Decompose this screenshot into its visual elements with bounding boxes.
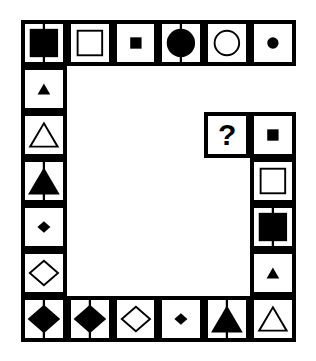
shape-triangle-small-filled-icon xyxy=(25,69,63,109)
puzzle-cell-r2c1 xyxy=(21,66,67,112)
puzzle-cell-r5c6 xyxy=(250,204,296,250)
cell-content-r3c5: ? xyxy=(208,116,246,154)
puzzle-cell-r6c6 xyxy=(250,250,296,296)
puzzle-cell-r7c4 xyxy=(158,296,204,342)
puzzle-cell-r4c6 xyxy=(250,158,296,204)
puzzle-cell-r3c5[interactable]: ? xyxy=(204,112,250,158)
puzzle-cell-r1c5 xyxy=(204,20,250,66)
puzzle-cell-r7c2 xyxy=(67,296,113,342)
cell-content-r4c1 xyxy=(25,162,63,200)
shape-diamond-large-filled-icon xyxy=(71,299,109,339)
cell-content-r1c3 xyxy=(117,24,155,62)
shape-triangle-large-filled-icon xyxy=(25,161,63,201)
shape-square-large-filled-icon xyxy=(25,23,63,63)
cell-content-r6c6 xyxy=(254,254,292,292)
puzzle-cell-r3c6 xyxy=(250,112,296,158)
puzzle-cell-r1c3 xyxy=(113,20,159,66)
shape-triangle-medium-outline-icon xyxy=(25,115,63,155)
shape-square-small-filled-icon xyxy=(117,23,155,63)
puzzle-cell-r7c5 xyxy=(204,296,250,342)
shape-triangle-large-filled-icon xyxy=(208,299,246,339)
shape-diamond-medium-outline-icon xyxy=(117,299,155,339)
puzzle-cell-r4c1 xyxy=(21,158,67,204)
shape-triangle-small-filled-icon xyxy=(254,253,292,293)
shape-circle-small-filled-icon xyxy=(254,23,292,63)
cell-content-r7c4 xyxy=(162,300,200,338)
cell-content-r7c2 xyxy=(71,300,109,338)
puzzle-cell-r7c3 xyxy=(113,296,159,342)
cell-content-r7c3 xyxy=(117,300,155,338)
shape-diamond-small-filled-icon xyxy=(162,299,200,339)
shape-matrix-puzzle: ? xyxy=(0,0,316,361)
puzzle-grid: ? xyxy=(0,0,316,361)
cell-content-r4c6 xyxy=(254,162,292,200)
puzzle-cell-r6c1 xyxy=(21,250,67,296)
cell-content-r1c6 xyxy=(254,24,292,62)
puzzle-cell-r7c1 xyxy=(21,296,67,342)
cell-content-r1c5 xyxy=(208,24,246,62)
shape-triangle-medium-outline-icon xyxy=(254,299,292,339)
shape-circle-large-filled-icon xyxy=(162,23,200,63)
cell-content-r1c2 xyxy=(71,24,109,62)
cell-content-r3c1 xyxy=(25,116,63,154)
shape-square-medium-outline-icon xyxy=(71,23,109,63)
cell-content-r1c4 xyxy=(162,24,200,62)
puzzle-cell-r3c1 xyxy=(21,112,67,158)
cell-content-r7c6 xyxy=(254,300,292,338)
question-mark: ? xyxy=(218,120,236,150)
shape-diamond-medium-outline-icon xyxy=(25,253,63,293)
cell-content-r7c1 xyxy=(25,300,63,338)
cell-content-r2c1 xyxy=(25,70,63,108)
shape-diamond-large-filled-icon xyxy=(25,299,63,339)
cell-content-r6c1 xyxy=(25,254,63,292)
cell-content-r5c1 xyxy=(25,208,63,246)
cell-content-r7c5 xyxy=(208,300,246,338)
cell-content-r5c6 xyxy=(254,208,292,246)
cell-content-r1c1 xyxy=(25,24,63,62)
shape-square-large-filled-icon xyxy=(254,207,292,247)
cell-content-r3c6 xyxy=(254,116,292,154)
puzzle-cell-r1c6 xyxy=(250,20,296,66)
puzzle-cell-r1c2 xyxy=(67,20,113,66)
shape-circle-medium-outline-icon xyxy=(208,23,246,63)
shape-square-small-filled-icon xyxy=(254,115,292,155)
puzzle-cell-r1c4 xyxy=(158,20,204,66)
puzzle-cell-r1c1 xyxy=(21,20,67,66)
shape-diamond-small-filled-icon xyxy=(25,207,63,247)
puzzle-cell-r7c6 xyxy=(250,296,296,342)
shape-square-medium-outline-icon xyxy=(254,161,292,201)
puzzle-cell-r5c1 xyxy=(21,204,67,250)
